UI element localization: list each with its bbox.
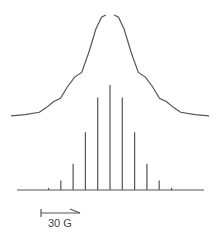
spectrum-left-branch (11, 15, 106, 116)
stick-spectrum (49, 85, 172, 190)
epr-figure: 30 G (0, 0, 222, 240)
spectrum-right-branch (114, 15, 209, 116)
scale-bar-label: 30 G (48, 217, 72, 229)
scale-bar: 30 G (41, 209, 80, 229)
